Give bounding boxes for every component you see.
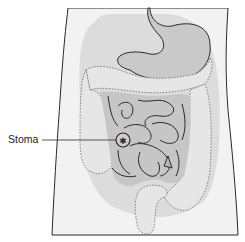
anatomy-illustration: ✱ xyxy=(0,0,245,242)
small-intestine xyxy=(100,91,191,186)
stoma: ✱ xyxy=(116,133,130,147)
anatomy-diagram: ✱ Stoma xyxy=(0,0,245,242)
stoma-label: Stoma xyxy=(8,133,38,145)
svg-text:✱: ✱ xyxy=(119,136,127,146)
